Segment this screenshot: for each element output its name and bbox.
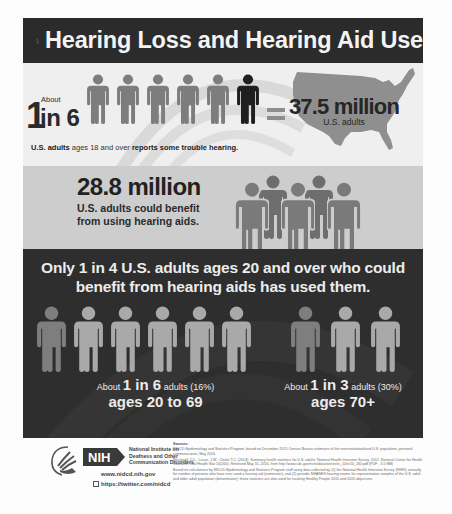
person-highlighted-icon — [291, 306, 320, 372]
infographic: Hearing Loss and Hearing Aid Use 1 About… — [23, 18, 423, 508]
percent-label: adults (30%) — [349, 382, 402, 392]
nih-logo-icon: NIH — [83, 448, 125, 466]
figures-ages-20-69 — [37, 306, 251, 372]
page-title: Hearing Loss and Hearing Aid Use — [45, 27, 423, 54]
caption-bold-1: U.S. adults — [31, 143, 70, 152]
percent-label: adults (16%) — [161, 382, 214, 392]
stat-value: 28.8 million — [77, 174, 201, 200]
ear-minus-icon — [35, 26, 39, 56]
person-icon — [147, 74, 169, 124]
group-of-people-icon — [223, 175, 363, 249]
headline-line-1: Only 1 in 4 U.S. adults ages 20 and over… — [23, 258, 423, 277]
svg-text:NIH: NIH — [88, 450, 110, 465]
figures-row — [87, 74, 259, 124]
age-range: ages 70+ — [268, 393, 418, 410]
person-icon — [111, 306, 140, 372]
person-icon — [87, 74, 109, 124]
hhs-eagle-logo-icon — [48, 444, 82, 478]
figures-ages-70-plus — [291, 306, 400, 372]
ratio-rest: in 6 — [40, 104, 79, 132]
person-highlighted-icon — [237, 74, 259, 124]
caption-normal: ages 18 and over — [70, 143, 132, 152]
sources: Sources: NIDCD Epidemiology and Statisti… — [173, 442, 423, 483]
one-in-six-ratio: 1 About in 6 — [26, 94, 82, 134]
title-banner: Hearing Loss and Hearing Aid Use — [23, 18, 423, 63]
prevalence-section: 1 About in 6 37.5 million U.S. adults U.… — [23, 63, 423, 166]
person-icon — [371, 306, 400, 372]
person-icon — [185, 306, 214, 372]
twitter-url[interactable]: https://twitter.com/nidcd — [101, 481, 170, 487]
person-icon — [331, 306, 360, 372]
twitter-icon — [93, 481, 99, 487]
source-3: Based on calculations by NIDCD Epidemiol… — [173, 468, 423, 481]
stat-value: 37.5 million — [279, 96, 409, 118]
stat-line-2: from using hearing aids. — [77, 215, 201, 228]
hearing-aid-use-section: Only 1 in 4 U.S. adults ages 20 and over… — [23, 249, 423, 438]
person-icon — [177, 74, 199, 124]
caption-bold-2: reports some trouble hearing. — [132, 143, 238, 152]
could-benefit-section: 28.8 million U.S. adults could benefit f… — [23, 166, 423, 249]
caption-ages-70-plus: About 1 in 3 adults (30%) ages 70+ — [268, 376, 418, 410]
sources-title: Sources: — [173, 442, 423, 446]
person-icon — [74, 306, 103, 372]
website-link[interactable]: www.nidcd.nih.gov — [101, 471, 155, 477]
headline: Only 1 in 4 U.S. adults ages 20 and over… — [23, 258, 423, 296]
about-label: About — [97, 382, 123, 392]
caption-ages-20-69: About 1 in 6 adults (16%) ages 20 to 69 — [73, 376, 238, 410]
stat-28-8-million: 28.8 million U.S. adults could benefit f… — [77, 174, 201, 228]
source-2: Blackwell, D.L., Lucas, J.W., Clarke T.C… — [173, 458, 423, 467]
ratio: 1 in 3 — [310, 376, 348, 393]
age-range: ages 20 to 69 — [73, 393, 238, 410]
ratio: 1 in 6 — [123, 376, 161, 393]
person-highlighted-icon — [37, 306, 66, 372]
person-icon — [222, 306, 251, 372]
twitter-link[interactable]: https://twitter.com/nidcd — [93, 481, 170, 487]
person-icon — [117, 74, 139, 124]
headline-line-2: benefit from hearing aids has used them. — [23, 277, 423, 296]
stat-37-5-million: 37.5 million U.S. adults — [279, 96, 409, 127]
about-label: About — [41, 95, 61, 104]
source-1: NIDCD Epidemiology and Statistics Progra… — [173, 447, 423, 456]
about-label: About — [284, 382, 310, 392]
stat-line-1: U.S. adults could benefit — [77, 202, 201, 215]
person-icon — [148, 306, 177, 372]
person-icon — [207, 74, 229, 124]
footer: NIH National Institute on Deafness and O… — [23, 438, 423, 508]
prevalence-caption: U.S. adults ages 18 and over reports som… — [31, 143, 238, 152]
